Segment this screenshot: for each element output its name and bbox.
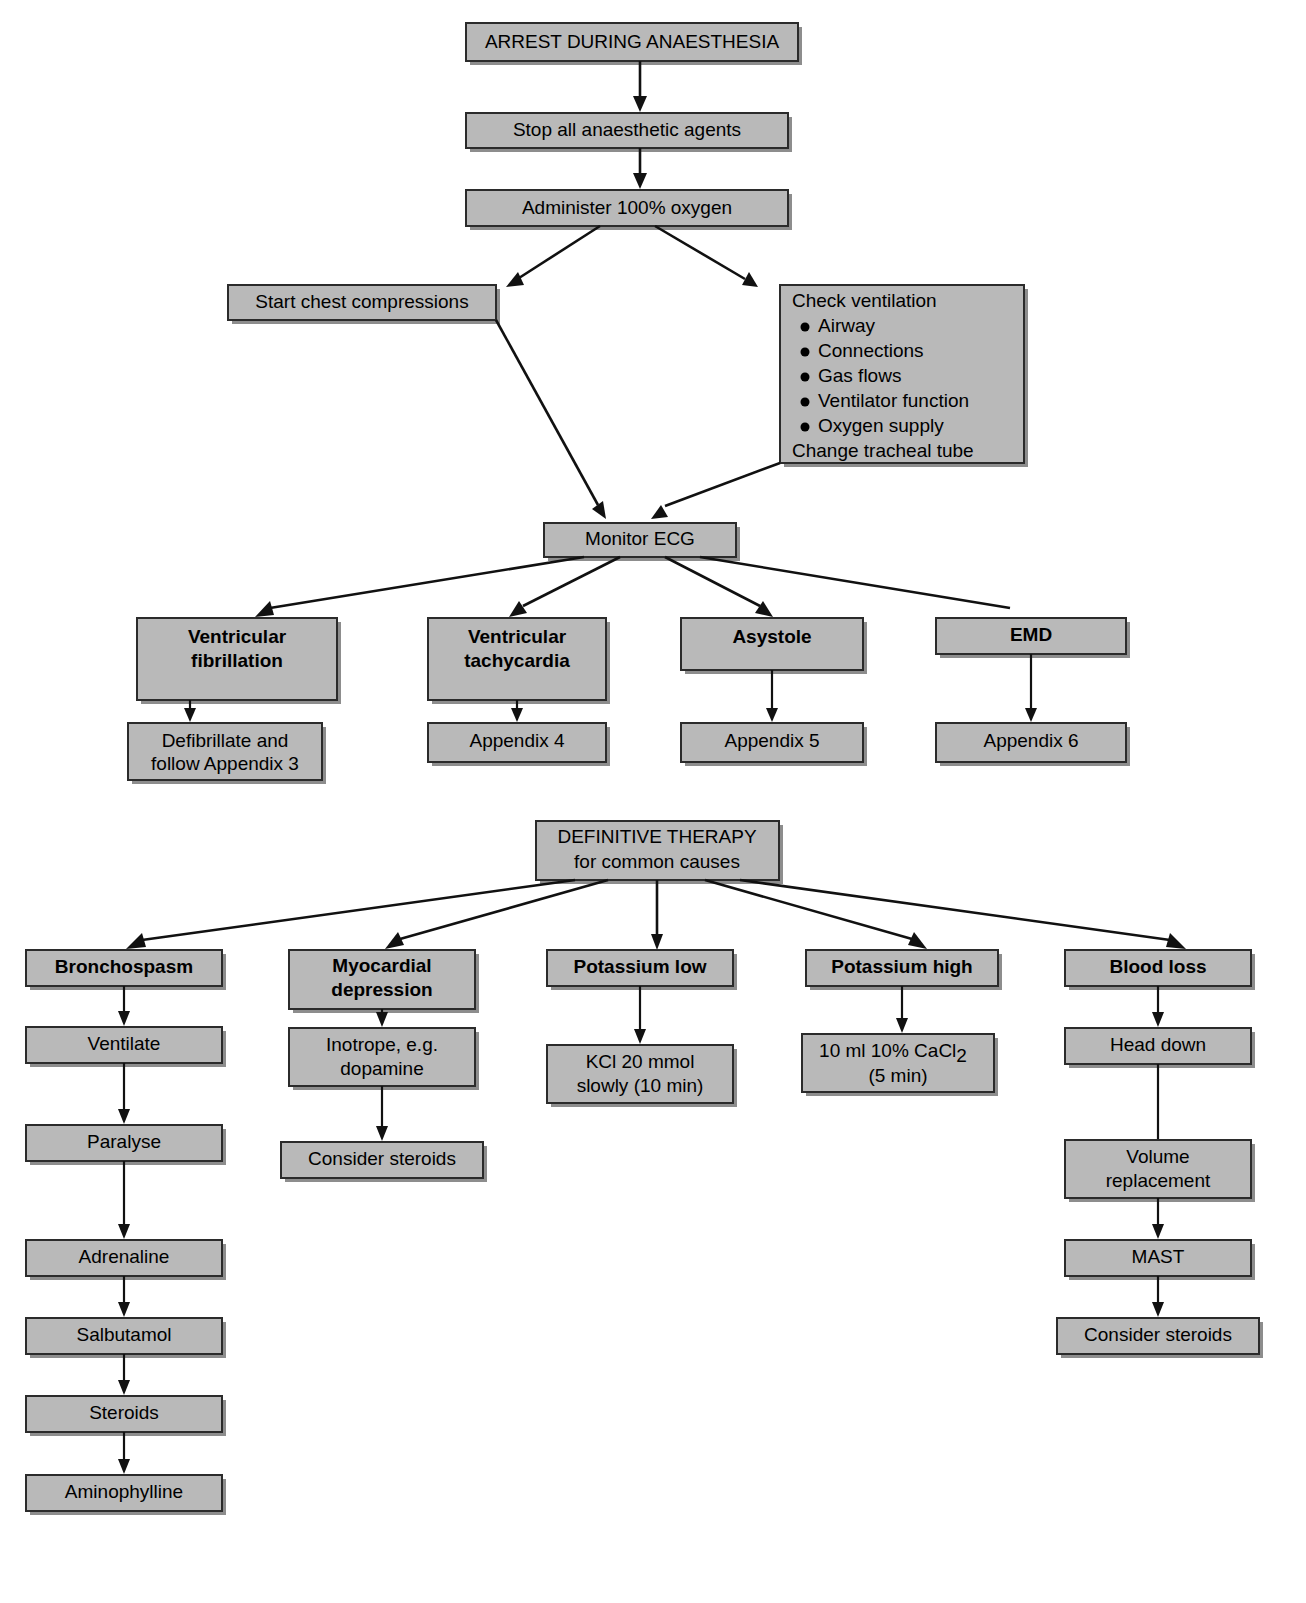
node-cause-4-step-2: MAST — [1065, 1240, 1255, 1280]
connector-oxygen-to-ventilation — [655, 226, 758, 287]
connector-therapy-to-cause-4 — [740, 880, 1186, 949]
connector-ecg-to-vf — [255, 557, 584, 617]
node-cause-0-header: Bronchospasm — [26, 950, 226, 990]
node-cause-4-step-1-line2: replacement — [1106, 1170, 1211, 1191]
connector-cause-0-step-3 — [118, 1276, 130, 1317]
node-action-2: Appendix 5 — [681, 723, 867, 766]
node-arrest: ARREST DURING ANAESTHESIA — [466, 23, 802, 65]
node-cause-2-step-0-line1: KCl 20 mmol — [586, 1051, 695, 1072]
node-compressions: Start chest compressions — [228, 285, 500, 324]
node-cause-2-header-label: Potassium low — [573, 956, 706, 977]
node-cause-3-step-0: 10 ml 10% CaCl2 (5 min) — [802, 1034, 998, 1096]
node-definitive-therapy-line2: for common causes — [574, 851, 740, 872]
node-cause-2-header: Potassium low — [547, 950, 737, 990]
node-cause-0-step-2-label: Adrenaline — [79, 1246, 170, 1267]
connector-cause-0-step-0 — [118, 986, 130, 1026]
node-ventilation-bullet-3: Ventilator function — [818, 390, 969, 411]
node-cause-0-step-3-label: Salbutamol — [76, 1324, 171, 1345]
node-cause-0-step-5-label: Aminophylline — [65, 1481, 183, 1502]
node-cause-4-step-0-label: Head down — [1110, 1034, 1206, 1055]
node-rhythm-0-line1: Ventricular — [188, 626, 287, 647]
node-cause-0-step-1: Paralyse — [26, 1125, 226, 1165]
node-cause-4-step-2-label: MAST — [1132, 1246, 1185, 1267]
node-ventilation: Check ventilation Airway Connections Gas… — [780, 285, 1028, 467]
node-oxygen-label: Administer 100% oxygen — [522, 197, 732, 218]
node-ventilation-bullet-4: Oxygen supply — [818, 415, 944, 436]
flowchart-canvas: ARREST DURING ANAESTHESIA Stop all anaes… — [0, 0, 1306, 1603]
connector-cause-1-step-1 — [376, 1086, 388, 1141]
node-cause-4-step-3: Consider steroids — [1057, 1318, 1263, 1358]
connector-arrest-to-stop — [633, 61, 647, 112]
node-action-0: Defibrillate and follow Appendix 3 — [128, 723, 326, 784]
node-cause-0-step-4-label: Steroids — [89, 1402, 159, 1423]
connector-therapy-to-cause-0 — [126, 880, 575, 949]
connector-therapy-to-cause-2 — [651, 880, 663, 950]
node-cause-0-step-2: Adrenaline — [26, 1240, 226, 1280]
node-cause-4-step-1-line1: Volume — [1126, 1146, 1189, 1167]
connector-compressions-to-ecg — [496, 320, 606, 519]
node-ventilation-footer: Change tracheal tube — [792, 440, 974, 461]
bullet-dot-icon — [801, 398, 810, 407]
node-cause-0-step-4: Steroids — [26, 1396, 226, 1436]
node-rhythm-2-line1: Asystole — [732, 626, 811, 647]
node-cause-1-step-0-line1: Inotrope, e.g. — [326, 1034, 438, 1055]
node-cause-4-header-label: Blood loss — [1109, 956, 1206, 977]
node-action-3: Appendix 6 — [936, 723, 1130, 766]
connector-cause-4-step-2 — [1152, 1198, 1164, 1239]
node-definitive-therapy-line1: DEFINITIVE THERAPY — [557, 826, 757, 847]
node-ventilation-heading: Check ventilation — [792, 290, 937, 311]
node-compressions-label: Start chest compressions — [255, 291, 468, 312]
node-cause-0-header-label: Bronchospasm — [55, 956, 193, 977]
node-cause-4-step-1: Volume replacement — [1065, 1140, 1255, 1202]
node-action-0-line1: Defibrillate and — [162, 730, 289, 751]
bullet-dot-icon — [801, 373, 810, 382]
node-rhythm-0-line2: fibrillation — [191, 650, 283, 671]
connector-rhythm-3-to-action — [1025, 654, 1037, 722]
node-cause-4-step-3-label: Consider steroids — [1084, 1324, 1232, 1345]
connector-stop-to-oxygen — [633, 148, 647, 189]
node-action-0-line2: follow Appendix 3 — [151, 753, 299, 774]
node-cause-3-step-0-line2: (5 min) — [868, 1065, 927, 1086]
node-arrest-label: ARREST DURING ANAESTHESIA — [485, 31, 780, 52]
node-action-2-line1: Appendix 5 — [724, 730, 819, 751]
bullet-dot-icon — [801, 348, 810, 357]
bullet-dot-icon — [801, 323, 810, 332]
node-action-3-line1: Appendix 6 — [983, 730, 1078, 751]
node-rhythm-1-line2: tachycardia — [464, 650, 570, 671]
connector-cause-3-step-0 — [896, 986, 908, 1033]
node-rhythm-2: Asystole — [681, 618, 867, 674]
node-cause-1-header-line2: depression — [331, 979, 432, 1000]
node-cause-4-step-0: Head down — [1065, 1028, 1255, 1068]
node-rhythm-0: Ventricular fibrillation — [137, 618, 341, 704]
node-definitive-therapy: DEFINITIVE THERAPY for common causes — [536, 821, 783, 884]
node-cause-3-header: Potassium high — [806, 950, 1002, 990]
node-cause-4-header: Blood loss — [1065, 950, 1255, 990]
bullet-dot-icon — [801, 423, 810, 432]
node-cause-1-step-0-line2: dopamine — [340, 1058, 423, 1079]
node-cause-3-header-label: Potassium high — [831, 956, 972, 977]
node-cause-2-step-0: KCl 20 mmol slowly (10 min) — [547, 1045, 737, 1107]
connector-oxygen-to-compressions — [506, 226, 600, 287]
node-stop-agents: Stop all anaesthetic agents — [466, 113, 792, 152]
node-action-1: Appendix 4 — [428, 723, 610, 766]
connector-rhythm-2-to-action — [766, 670, 778, 722]
node-monitor-ecg: Monitor ECG — [544, 523, 740, 561]
node-cause-1-header: Myocardial depression — [289, 950, 479, 1013]
flowchart-svg: ARREST DURING ANAESTHESIA Stop all anaes… — [0, 0, 1306, 1603]
node-cause-0-step-0-label: Ventilate — [88, 1033, 161, 1054]
node-rhythm-3-line1: EMD — [1010, 624, 1052, 645]
node-rhythm-1: Ventricular tachycardia — [428, 618, 610, 704]
node-action-1-line1: Appendix 4 — [469, 730, 565, 751]
node-cause-0-step-5: Aminophylline — [26, 1475, 226, 1515]
connector-cause-0-step-2 — [118, 1161, 130, 1239]
node-rhythm-1-line1: Ventricular — [468, 626, 567, 647]
node-cause-1-step-1: Consider steroids — [281, 1142, 487, 1182]
node-cause-1-step-1-label: Consider steroids — [308, 1148, 456, 1169]
node-monitor-ecg-label: Monitor ECG — [585, 528, 695, 549]
node-oxygen: Administer 100% oxygen — [466, 190, 792, 230]
node-ventilation-bullet-2: Gas flows — [818, 365, 901, 386]
connector-cause-4-step-3 — [1152, 1276, 1164, 1317]
node-cause-2-step-0-line2: slowly (10 min) — [577, 1075, 704, 1096]
connector-cause-0-step-5 — [118, 1432, 130, 1474]
node-ventilation-bullet-0: Airway — [818, 315, 876, 336]
